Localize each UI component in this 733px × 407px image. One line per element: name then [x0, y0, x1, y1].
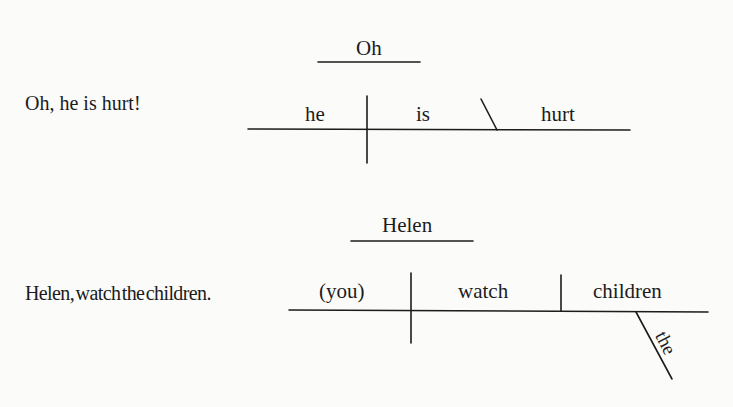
diagram-lines [0, 0, 733, 407]
modifier-slant [636, 312, 672, 379]
predicate-adjective-slant [481, 99, 497, 130]
baseline [289, 310, 708, 312]
baseline [248, 129, 630, 130]
